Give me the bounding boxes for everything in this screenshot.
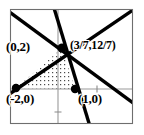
vertex-dot-intersection <box>57 43 66 52</box>
graph-figure: (0,2) (3/7,12/7) (-2,0) (1,0) <box>0 0 144 135</box>
label-vertex-intersection: (3/7,12/7) <box>70 39 116 51</box>
label-vertex-1-0: (1,0) <box>78 92 102 105</box>
label-vertex-0-2: (0,2) <box>6 40 30 53</box>
label-vertex-minus2-0: (-2,0) <box>6 92 34 105</box>
plot-canvas <box>0 0 144 135</box>
